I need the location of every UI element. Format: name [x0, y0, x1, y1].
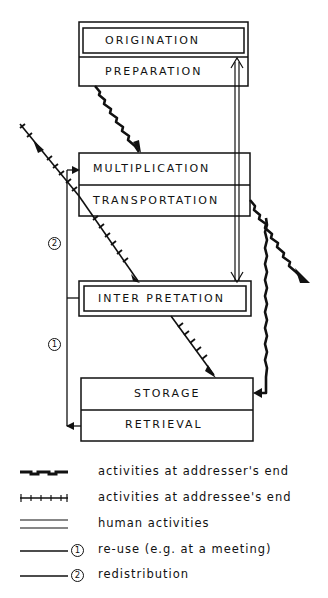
label-storage: STORAGE [134, 387, 200, 400]
addresser-path-transportation-outward [250, 200, 310, 283]
legend-label-human: human activities [98, 516, 210, 530]
label-origination: ORIGINATION [105, 34, 200, 47]
legend-label-reuse: re-use (e.g. at a meeting) [98, 542, 272, 556]
label-preparation: PREPARATION [105, 65, 202, 78]
label-transportation: TRANSPORTATION [93, 194, 219, 207]
label-interpretation: INTER PRETATION [98, 292, 225, 305]
marker-1-reuse: 1 [48, 338, 61, 351]
addresser-path-preparation-to-multiplication [95, 86, 141, 153]
legend-symbols [20, 472, 68, 576]
label-retrieval: RETRIEVAL [125, 418, 203, 431]
legend-label-addresser: activities at addresser's end [98, 464, 289, 478]
legend-marker-1: 1 [71, 544, 84, 557]
legend-label-redistribution: redistribution [98, 567, 189, 581]
legend-marker-2: 2 [71, 569, 84, 582]
label-multiplication: MULTIPLICATION [93, 162, 210, 175]
marker-2-redistribution: 2 [48, 237, 61, 250]
legend-label-addressee: activities at addressee's end [98, 490, 292, 504]
addresser-path-to-storage [253, 218, 267, 398]
